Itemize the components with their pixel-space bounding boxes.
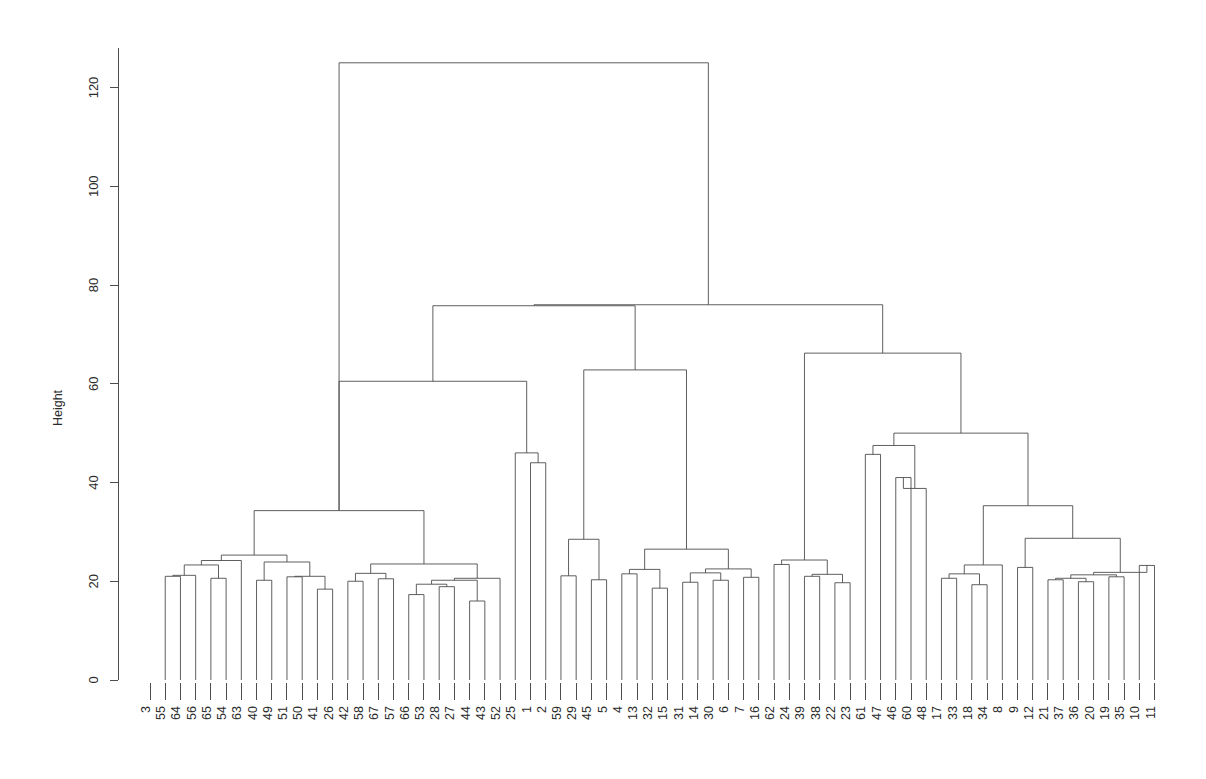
leaf-label: 31 <box>672 706 686 720</box>
leaf-label: 21 <box>1037 706 1051 720</box>
dendrogram-link <box>165 576 180 680</box>
dendrogram-link <box>873 445 915 488</box>
y-tick-label: 40 <box>86 475 101 489</box>
leaf-label: 14 <box>687 706 701 720</box>
dendrogram-link <box>439 587 454 680</box>
leaf-label: 56 <box>185 706 199 720</box>
leaf-label: 6 <box>717 706 731 713</box>
leaf-label: 54 <box>215 706 229 720</box>
y-axis-title-text: Height <box>51 389 65 426</box>
leaf-label: 7 <box>733 706 747 713</box>
dendrogram-plot: 020406080100120 Height 35564566554634049… <box>0 0 1206 779</box>
y-tick-label: 80 <box>86 278 101 292</box>
leaf-label: 49 <box>261 706 275 720</box>
dendrogram-link <box>744 577 759 680</box>
leaf-label: 58 <box>352 706 366 720</box>
dendrogram-link <box>378 579 393 680</box>
dendrogram-link <box>584 370 687 549</box>
dendrogram-link <box>1139 565 1154 680</box>
y-axis-title: Height <box>51 389 65 426</box>
dendrogram-link <box>339 381 527 510</box>
leaf-label: 8 <box>991 706 1005 713</box>
dendrogram-link <box>534 305 883 353</box>
dendrogram-link <box>683 582 698 680</box>
dendrogram-link <box>774 564 789 680</box>
leaf-label: 28 <box>428 706 442 720</box>
leaf-label: 45 <box>580 706 594 720</box>
leaf-label: 62 <box>763 706 777 720</box>
leaf-label: 17 <box>930 706 944 720</box>
dendrogram-link <box>371 564 478 578</box>
dendrogram-link <box>903 478 926 680</box>
leaf-label: 29 <box>565 706 579 720</box>
dendrogram-link <box>257 580 272 680</box>
leaf-label: 43 <box>474 706 488 720</box>
dendrogram-link <box>983 506 1072 565</box>
y-tick-label: 20 <box>86 574 101 588</box>
dendrogram-link <box>713 580 728 680</box>
leaf-label: 38 <box>809 706 823 720</box>
leaf-label: 16 <box>748 706 762 720</box>
leaf-label: 32 <box>641 706 655 720</box>
leaf-label: 42 <box>337 706 351 720</box>
leaf-label: 51 <box>276 706 290 720</box>
leaf-label: 57 <box>383 706 397 720</box>
dendrogram-link <box>211 578 226 680</box>
dendrogram-link <box>949 574 979 585</box>
dendrogram-link <box>804 353 960 560</box>
dendrogram-link <box>622 574 637 680</box>
leaf-label: 27 <box>443 706 457 720</box>
leaf-label: 1 <box>520 706 534 713</box>
y-axis-ticks: 020406080100120 <box>86 77 118 684</box>
leaf-label: 20 <box>1083 706 1097 720</box>
dendrogram-link <box>645 549 729 569</box>
leaf-label: 26 <box>322 706 336 720</box>
leaf-label: 65 <box>200 706 214 720</box>
leaf-label: 55 <box>154 706 168 720</box>
dendrogram-link <box>690 573 720 582</box>
dendrogram-link <box>287 577 302 680</box>
leaf-label: 23 <box>839 706 853 720</box>
leaf-label: 12 <box>1022 706 1036 720</box>
dendrogram-link <box>1018 567 1033 680</box>
leaf-label: 52 <box>489 706 503 720</box>
leaf-label: 19 <box>1098 706 1112 720</box>
dendrogram-link <box>1078 582 1093 680</box>
dendrogram-link <box>1048 580 1063 680</box>
leaf-label: 24 <box>778 706 792 720</box>
dendrogram-link <box>894 433 1028 506</box>
dendrogram-link <box>317 589 332 680</box>
leaf-label: 47 <box>870 706 884 720</box>
dendrogram-link <box>515 453 538 680</box>
dendrogram-link <box>355 573 385 581</box>
leaf-label: 30 <box>702 706 716 720</box>
dendrogram-link <box>591 580 606 680</box>
dendrogram-link <box>569 539 599 579</box>
dendrogram-link <box>865 454 880 680</box>
y-tick-label: 0 <box>86 676 101 683</box>
dendrogram-link <box>348 581 363 680</box>
leaf-label: 50 <box>291 706 305 720</box>
leaf-label: 44 <box>459 706 473 720</box>
y-tick-label: 60 <box>86 377 101 391</box>
dendrogram-link <box>531 463 546 680</box>
dendrogram-link <box>835 583 850 680</box>
dendrogram-link <box>964 565 1002 680</box>
leaf-label: 34 <box>976 706 990 720</box>
leaf-label: 59 <box>550 706 564 720</box>
leaf-label: 35 <box>1113 706 1127 720</box>
leaf-label: 36 <box>1067 706 1081 720</box>
leaf-label: 5 <box>596 706 610 713</box>
leaf-label: 9 <box>1007 706 1021 713</box>
dendrogram-link <box>782 560 828 574</box>
leaf-label: 33 <box>946 706 960 720</box>
leaf-label: 64 <box>169 706 183 720</box>
dendrogram-link <box>812 574 842 582</box>
leaf-label: 2 <box>535 706 549 713</box>
leaf-label: 67 <box>367 706 381 720</box>
leaf-label: 4 <box>611 706 625 713</box>
dendrogram-link <box>804 576 819 680</box>
leaf-label: 25 <box>504 706 518 720</box>
leaf-label: 41 <box>306 706 320 720</box>
y-axis: 020406080100120 <box>86 48 118 684</box>
